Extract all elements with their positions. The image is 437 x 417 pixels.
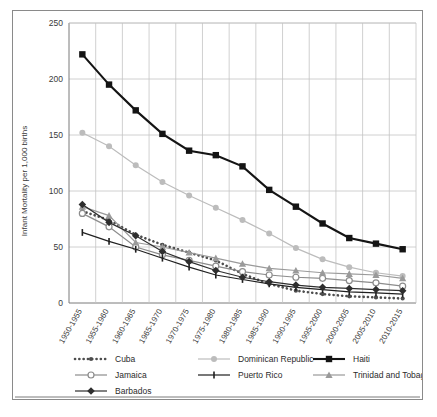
legend-item-label: Puerto Rico (238, 370, 283, 380)
legend-item-label: Trinidad and Tobago (353, 370, 422, 380)
data-point-open-circle (346, 278, 352, 284)
x-tick-label: 1950-1955 (57, 307, 84, 345)
infant-mortality-line-chart: 050100150200250 1950-19551955-19601960-1… (13, 11, 422, 399)
data-point-diamond (87, 387, 95, 395)
data-point-circle (211, 356, 217, 362)
data-point-square (106, 81, 112, 87)
data-point-open-circle (293, 274, 299, 280)
series-layer (79, 51, 407, 300)
data-point-square (293, 203, 299, 209)
x-tick-label: 1960-1965 (111, 307, 138, 345)
x-axis-ticks: 1950-19551955-19601960-19651965-19701970… (57, 307, 405, 345)
y-tick-label: 200 (49, 74, 63, 84)
chart-frame: 050100150200250 1950-19551955-19601960-1… (12, 10, 423, 400)
legend-item-label: Cuba (115, 354, 136, 364)
data-point-circle (240, 217, 246, 223)
legend-item-puerto-rico[interactable]: Puerto Rico (198, 370, 283, 380)
data-point-square (346, 235, 352, 241)
data-point-square (373, 240, 379, 246)
x-tick-label: 1985-1990 (244, 307, 271, 345)
data-point-open-circle (266, 272, 272, 278)
x-tick-label: 1970-1975 (164, 307, 191, 345)
data-point-square (79, 51, 85, 57)
data-point-dot (89, 357, 93, 361)
legend-item-label: Jamaica (115, 370, 147, 380)
legend-item-trinidad-and-tobago[interactable]: Trinidad and Tobago (313, 370, 422, 380)
x-tick-label: 1990-1995 (271, 307, 298, 345)
y-tick-label: 250 (49, 18, 63, 28)
x-tick-label: 2005-2010 (351, 307, 378, 345)
data-point-square (133, 107, 139, 113)
data-point-square (239, 163, 245, 169)
data-point-open-circle (373, 280, 379, 286)
x-tick-label: 1975-1980 (191, 307, 218, 345)
legend-item-label: Barbados (115, 386, 151, 396)
data-point-circle (320, 256, 326, 262)
data-point-open-circle (320, 275, 326, 281)
series-line (82, 211, 402, 298)
data-point-circle (106, 143, 112, 149)
data-point-square (399, 246, 405, 252)
data-point-circle (186, 192, 192, 198)
data-point-circle (346, 264, 352, 270)
data-point-square (186, 147, 192, 153)
series-barbados (79, 201, 407, 295)
x-tick-label: 1965-1970 (137, 307, 164, 345)
y-tick-label: 0 (58, 298, 63, 308)
data-point-circle (213, 205, 219, 211)
legend-item-barbados[interactable]: Barbados (75, 386, 151, 396)
data-point-square (266, 187, 272, 193)
data-point-square (326, 356, 332, 362)
y-tick-label: 50 (54, 242, 64, 252)
x-tick-label: 1995-2000 (297, 307, 324, 345)
chart-legend: CubaDominican RepublicHaitiJamaicaPuerto… (75, 354, 422, 396)
data-point-square (213, 152, 219, 158)
data-point-circle (133, 162, 139, 168)
legend-item-label: Dominican Republic (238, 354, 314, 364)
data-point-circle (293, 245, 299, 251)
data-point-circle (79, 130, 85, 136)
data-point-square (159, 131, 165, 137)
data-point-open-circle (79, 210, 85, 216)
series-dominican-republic (79, 130, 405, 279)
legend-item-label: Haiti (353, 354, 370, 364)
y-axis-ticks: 050100150200250 (49, 18, 63, 308)
x-tick-label: 1980-1985 (217, 307, 244, 345)
legend-item-haiti[interactable]: Haiti (313, 354, 370, 364)
y-tick-label: 100 (49, 186, 63, 196)
series-line (82, 133, 402, 276)
y-axis-label: Infant Mortality per 1,000 births (20, 126, 29, 236)
data-point-open-circle (88, 372, 94, 378)
legend-item-cuba[interactable]: Cuba (75, 354, 136, 364)
data-point-circle (159, 179, 165, 185)
legend-item-jamaica[interactable]: Jamaica (75, 370, 147, 380)
x-tick-label: 2000-2005 (324, 307, 351, 345)
data-point-circle (266, 231, 272, 237)
data-point-square (319, 220, 325, 226)
x-tick-label: 1955-1960 (84, 307, 111, 345)
y-tick-label: 150 (49, 130, 63, 140)
legend-item-dominican-republic[interactable]: Dominican Republic (198, 354, 314, 364)
x-tick-label: 2010-2015 (377, 307, 404, 345)
